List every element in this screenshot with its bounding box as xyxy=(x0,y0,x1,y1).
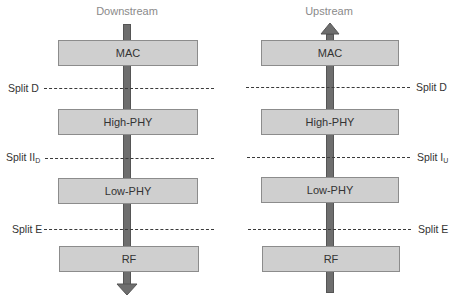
downstream-split-d-line xyxy=(44,88,214,89)
upstream-split-i-label: Split IU xyxy=(417,151,448,163)
upstream-title: Upstream xyxy=(269,5,389,17)
upstream-layer-mac: MAC xyxy=(261,40,399,66)
upstream-layer-low-phy: Low-PHY xyxy=(261,177,399,203)
downstream-split-ii-line xyxy=(45,158,214,159)
upstream-split-i-line xyxy=(247,157,410,158)
downstream-layer-low-phy: Low-PHY xyxy=(58,178,198,204)
upstream-split-d-label: Split D xyxy=(416,81,447,93)
downstream-layer-mac: MAC xyxy=(58,40,198,66)
upstream-split-e-line xyxy=(248,229,411,230)
downstream-layer-rf: RF xyxy=(59,246,199,272)
upstream-split-e-label: Split E xyxy=(418,223,448,235)
downstream-split-d-label: Split D xyxy=(8,82,39,94)
downstream-layer-high-phy: High-PHY xyxy=(58,109,198,135)
downstream-split-e-line xyxy=(44,229,214,230)
upstream-layer-high-phy: High-PHY xyxy=(261,109,399,135)
downstream-title: Downstream xyxy=(67,5,187,17)
arrow-down-icon xyxy=(117,284,137,296)
upstream-layer-rf: RF xyxy=(262,246,400,272)
downstream-split-e-label: Split E xyxy=(12,223,42,235)
upstream-split-d-line xyxy=(246,87,410,88)
downstream-split-ii-label: Split IID xyxy=(6,151,40,163)
